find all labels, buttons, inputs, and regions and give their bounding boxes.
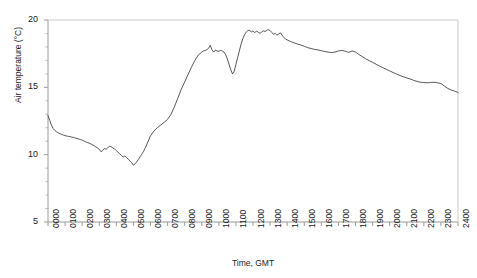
x-tick-label: 0400 — [120, 209, 129, 228]
x-tick-label: 2400 — [462, 209, 471, 228]
x-tick-label: 1700 — [342, 209, 351, 228]
x-tick-label: 1600 — [325, 209, 334, 228]
x-tick-label: 1400 — [291, 209, 300, 228]
y-tick-label: 5 — [16, 217, 38, 226]
plot-area — [0, 0, 477, 278]
y-tick-label: 20 — [16, 15, 38, 24]
x-tick-label: 0800 — [188, 209, 197, 228]
x-tick-label: 0100 — [69, 209, 78, 228]
x-tick-label: 0000 — [52, 209, 61, 228]
x-tick-label: 0200 — [86, 209, 95, 228]
x-tick-label: 0900 — [205, 209, 214, 228]
x-axis-title-wrap: Time, GMT — [48, 258, 458, 268]
x-tick-label: 2200 — [427, 209, 436, 228]
x-tick-label: 2300 — [444, 209, 453, 228]
x-axis-title: Time, GMT — [232, 258, 274, 268]
x-tick-label: 0300 — [103, 209, 112, 228]
x-tick-label: 2100 — [410, 209, 419, 228]
x-tick-label: 1800 — [359, 209, 368, 228]
y-tick-label: 10 — [16, 150, 38, 159]
x-tick-label: 1000 — [222, 209, 231, 228]
x-tick-label: 1900 — [376, 209, 385, 228]
x-tick-label: 0700 — [171, 209, 180, 228]
chart-figure: Air temperature (°C) 5101520 00000100020… — [0, 0, 477, 278]
x-tick-label: 1200 — [257, 209, 266, 228]
y-tick-marks — [44, 20, 48, 222]
x-tick-label: 2000 — [393, 209, 402, 228]
x-tick-label: 1500 — [308, 209, 317, 228]
x-tick-label: 0500 — [137, 209, 146, 228]
axis-lines — [48, 20, 458, 222]
x-tick-label: 1300 — [274, 209, 283, 228]
y-tick-label: 15 — [16, 82, 38, 91]
temperature-line — [48, 30, 458, 165]
x-tick-label: 1100 — [239, 210, 248, 228]
x-tick-label: 0600 — [154, 209, 163, 228]
